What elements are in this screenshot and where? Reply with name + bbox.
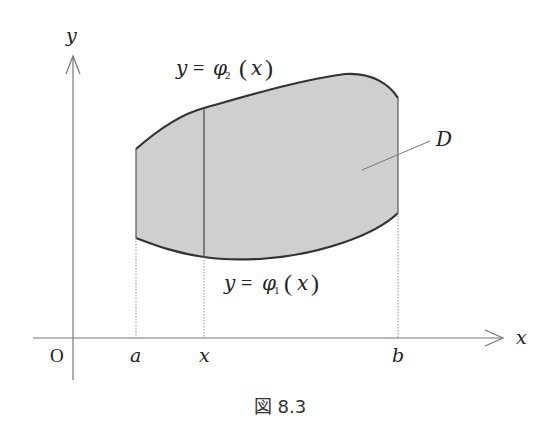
origin-label: O [50, 345, 64, 366]
tick-label-b: b [392, 344, 404, 366]
upper-sub: 2 [225, 69, 231, 81]
upper-curve-label: y = φ 2 ( x ) [175, 55, 273, 81]
lower-curve-label: y = φ 1 ( x ) [223, 270, 319, 296]
figure-canvas: y x O a x b D y = φ 2 ( x ) y = φ 1 ( x … [0, 0, 560, 445]
upper-arg: x [251, 56, 262, 80]
figure-caption: 図 8.3 [254, 396, 306, 417]
lower-lparen: ( [284, 270, 292, 296]
lower-eq: = [241, 272, 252, 294]
region-label-d: D [435, 127, 452, 151]
tick-label-x: x [199, 344, 210, 366]
upper-lhs: y [175, 56, 188, 80]
x-axis-label: x [516, 326, 527, 348]
y-axis-label: y [65, 24, 77, 46]
region-d [136, 74, 398, 260]
upper-eq: = [193, 57, 204, 79]
upper-rparen: ) [265, 55, 273, 81]
lower-rparen: ) [311, 270, 319, 296]
tick-label-a: a [130, 344, 141, 366]
upper-lparen: ( [239, 55, 247, 81]
lower-lhs: y [223, 271, 236, 295]
lower-sub: 1 [274, 284, 280, 296]
lower-arg: x [297, 271, 308, 295]
